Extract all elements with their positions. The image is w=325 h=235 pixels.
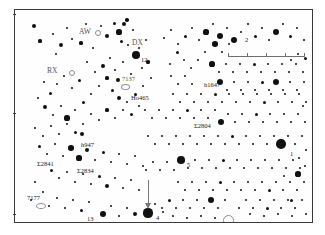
star-marker [283,113,286,116]
star-marker [299,167,302,170]
object-label: 2 [245,37,248,44]
object-label: RX [47,67,57,75]
star-marker [266,207,269,210]
star-marker [295,171,300,176]
star-marker [42,191,44,193]
star-marker [105,184,110,189]
star-marker [142,85,144,87]
star-marker [86,61,88,63]
star-marker [111,89,114,92]
star-marker [175,135,178,138]
star-marker [62,155,64,157]
star-marker [260,71,262,73]
star-marker [277,101,279,103]
star-marker [210,143,212,145]
star-marker [305,213,307,215]
star-marker [92,47,95,50]
star-marker [98,119,100,121]
star-marker [161,135,164,138]
star-marker [184,35,187,38]
star-marker [186,217,188,219]
object-label: AW [79,28,91,36]
star-marker [114,177,117,180]
star-marker [80,209,83,212]
star-marker [113,22,116,25]
object-label: 7084 [236,221,249,223]
ngc-7137 [121,84,130,90]
star-marker [43,105,47,109]
star-marker [292,159,294,161]
star-marker [74,109,76,111]
star-marker [110,161,112,163]
star-marker [193,117,195,119]
star-marker [32,24,36,28]
star-marker [254,35,257,38]
star-marker [243,167,245,169]
star-marker [88,201,90,203]
star-marker [147,135,150,138]
star-marker [249,101,251,103]
star-marker [196,143,198,145]
star-marker [114,69,117,72]
star-marker [170,75,173,78]
star-marker [214,217,216,219]
frame-tick [13,214,16,215]
star-marker [38,145,41,148]
star-marker [144,109,147,112]
star-marker [245,199,247,201]
star-marker [163,37,166,40]
star-marker [273,135,276,138]
star-marker [284,93,287,96]
star-marker [177,156,185,164]
star-marker [191,83,193,85]
star-marker [304,121,306,123]
star-marker [235,101,238,104]
star-marker [221,101,223,103]
star-marker [109,57,112,60]
star-marker [273,29,279,35]
star-marker [186,109,189,112]
frame-tick [13,113,16,114]
star-marker [242,93,245,96]
star-marker [261,181,263,183]
target-arrow-shaft [148,180,149,204]
star-marker [291,215,294,218]
star-marker [273,79,279,85]
star-marker [221,51,223,53]
star-marker [240,189,243,192]
star-marker [197,59,199,61]
star-marker [193,101,196,104]
star-marker [150,77,153,80]
scale-bar-tick [285,53,286,57]
star-marker [90,93,93,96]
star-marker [183,59,185,61]
star-marker [253,63,256,66]
object-label: 13 [87,216,94,223]
star-marker [226,189,228,191]
star-marker [288,71,290,73]
star-marker [283,175,286,178]
star-marker [302,105,305,108]
star-marker [189,207,192,210]
star-marker [126,101,129,104]
star-marker [208,159,211,162]
star-marker [271,167,273,169]
star-marker [252,207,255,210]
star-marker [203,29,208,34]
star-marker [173,169,175,171]
star-marker [110,205,112,207]
object-label: 12 [141,57,148,64]
star-marker [231,37,238,44]
star-marker [217,33,223,39]
star-marker [101,64,105,68]
star-marker [249,213,251,215]
star-marker [179,117,181,119]
star-marker [60,105,63,108]
star-marker [172,93,175,96]
star-marker [294,143,297,146]
star-marker [270,93,273,96]
star-marker [48,205,51,208]
star-marker [105,76,108,79]
star-marker [301,199,304,202]
star-marker [132,51,140,59]
